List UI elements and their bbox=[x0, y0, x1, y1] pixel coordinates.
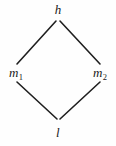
node-label-right: m2 bbox=[86, 66, 114, 79]
node-label-left-text: m bbox=[9, 65, 19, 80]
edge-left-to-bottom bbox=[17, 82, 57, 119]
node-label-top-text: h bbox=[55, 2, 62, 17]
edge-top-to-left bbox=[17, 21, 56, 64]
node-label-left: m1 bbox=[2, 66, 30, 79]
node-label-right-subscript: 2 bbox=[103, 72, 107, 82]
node-label-right-text: m bbox=[93, 65, 103, 80]
edge-top-to-right bbox=[60, 21, 100, 64]
node-label-bottom-text: l bbox=[56, 125, 60, 140]
hasse-diagram-figure: h m1 m2 l bbox=[0, 0, 116, 146]
node-label-top: h bbox=[0, 3, 116, 16]
edge-right-to-bottom bbox=[60, 82, 100, 119]
node-label-left-subscript: 1 bbox=[19, 72, 23, 82]
node-label-bottom: l bbox=[0, 126, 116, 139]
